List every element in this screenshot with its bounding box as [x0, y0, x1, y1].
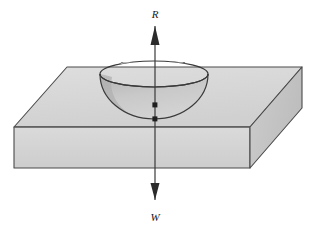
- contact-point: [152, 116, 157, 121]
- diagram-canvas: R W: [0, 0, 314, 232]
- weight-force-label: W: [150, 211, 160, 223]
- slab-front-face: [14, 127, 250, 168]
- reaction-force-label: R: [151, 8, 159, 20]
- physics-diagram: R W: [0, 0, 314, 232]
- reaction-arrowhead-icon: [151, 26, 160, 45]
- weight-arrowhead-icon: [151, 183, 160, 200]
- centre-of-mass-point: [152, 102, 157, 107]
